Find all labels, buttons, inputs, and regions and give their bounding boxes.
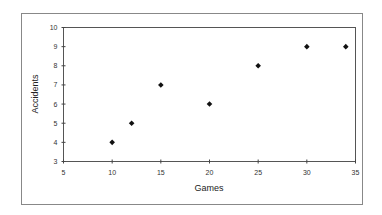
y-axis-title: Accidents xyxy=(30,74,40,114)
y-tick-label: 3 xyxy=(54,158,58,165)
y-tick-label: 5 xyxy=(54,120,58,127)
x-tick-label: 15 xyxy=(157,169,165,176)
y-tick-label: 9 xyxy=(54,43,58,50)
x-tick-label: 30 xyxy=(303,169,311,176)
x-axis-title: Games xyxy=(194,183,224,193)
scatter-chart: 345678910 5101520253035 Games Accidents xyxy=(0,0,382,215)
y-tick-label: 6 xyxy=(54,101,58,108)
y-tick-label: 4 xyxy=(54,139,58,146)
x-tick-label: 35 xyxy=(352,169,360,176)
y-tick-label: 8 xyxy=(54,62,58,69)
x-tick-label: 20 xyxy=(206,169,214,176)
y-tick-label: 10 xyxy=(50,24,58,31)
x-tick-label: 25 xyxy=(254,169,262,176)
x-tick-label: 5 xyxy=(62,169,66,176)
x-tick-label: 10 xyxy=(108,169,116,176)
y-tick-label: 7 xyxy=(54,81,58,88)
plot-area xyxy=(64,28,356,162)
